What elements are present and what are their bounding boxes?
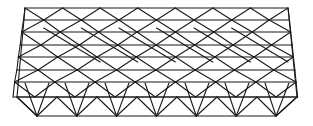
web-member xyxy=(269,20,290,32)
diagonal-member xyxy=(213,8,232,20)
diagonal-member xyxy=(38,57,58,70)
web-member xyxy=(156,70,176,82)
diagonal-member xyxy=(77,57,97,70)
web-member xyxy=(214,20,232,32)
web-member xyxy=(195,45,215,57)
diagonal-member xyxy=(195,57,215,70)
diagonal-member xyxy=(254,57,274,70)
diagonal-member xyxy=(194,8,213,20)
pyramid-member xyxy=(117,83,129,116)
left-edge xyxy=(17,8,25,97)
diagonal-member xyxy=(234,57,254,70)
diagonal-member xyxy=(55,82,75,97)
web-member xyxy=(22,20,44,32)
diagonal-member xyxy=(136,57,156,70)
diagonal-member xyxy=(118,32,137,45)
diagonal-member xyxy=(236,82,256,97)
diagonal-member xyxy=(157,8,176,20)
diagonal-member xyxy=(137,32,156,45)
edge-member xyxy=(13,82,15,97)
edge-member xyxy=(18,45,20,57)
diagonal-member xyxy=(44,8,63,20)
web-member xyxy=(95,70,117,82)
pyramid-member xyxy=(77,83,89,116)
web-member xyxy=(156,45,175,57)
diagonal-member xyxy=(81,8,100,20)
diagonal-member xyxy=(99,32,118,45)
web-member xyxy=(60,20,81,32)
web-member xyxy=(216,70,235,82)
space-frame-diagram xyxy=(0,0,313,126)
web-member xyxy=(38,70,55,82)
diagonal-member xyxy=(119,8,138,20)
pyramid-member xyxy=(236,83,249,116)
diagonal-member xyxy=(18,57,38,70)
web-member xyxy=(77,70,95,82)
diagonal-member xyxy=(138,8,157,20)
pyramid-member xyxy=(196,83,209,116)
front-right-edge xyxy=(276,97,297,116)
diagonal-member xyxy=(175,8,194,20)
pyramid-member xyxy=(276,83,289,116)
web-member xyxy=(271,45,293,57)
diagonal-member xyxy=(100,8,119,20)
diagonal-member xyxy=(175,32,194,45)
web-member xyxy=(215,45,233,57)
web-member xyxy=(135,70,156,82)
web-member xyxy=(233,45,254,57)
diagonal-member xyxy=(269,8,288,20)
diagonal-member xyxy=(214,32,233,45)
web-member xyxy=(136,45,156,57)
diagonal-member xyxy=(176,57,196,70)
diagonal-member xyxy=(156,57,176,70)
web-member xyxy=(81,20,98,32)
web-member xyxy=(176,45,195,57)
web-member xyxy=(44,20,60,32)
diagonal-member xyxy=(215,57,235,70)
diagonal-member xyxy=(97,57,117,70)
diagonal-member xyxy=(41,32,60,45)
diagonal-member xyxy=(196,82,216,97)
pyramid-member xyxy=(157,83,170,116)
diagonal-member xyxy=(252,32,271,45)
web-member xyxy=(58,45,80,57)
web-member xyxy=(175,20,194,32)
web-member xyxy=(252,20,269,32)
web-member xyxy=(256,70,274,82)
web-member xyxy=(55,70,78,82)
edge-member xyxy=(15,70,17,82)
right-edge xyxy=(288,8,297,97)
diagonal-member xyxy=(250,8,269,20)
diagonal-member xyxy=(63,8,82,20)
web-member xyxy=(175,70,195,82)
diagonal-member xyxy=(271,32,290,45)
web-member xyxy=(99,20,119,32)
web-member xyxy=(97,45,118,57)
web-member xyxy=(41,45,58,57)
diagonal-member xyxy=(25,8,44,20)
web-member xyxy=(234,70,255,82)
diagonal-member xyxy=(22,32,41,45)
web-member xyxy=(137,20,157,32)
edge-member xyxy=(17,57,19,70)
diagonal-member xyxy=(58,57,78,70)
web-member xyxy=(195,70,215,82)
diagonal-member xyxy=(232,8,251,20)
diagonal-member xyxy=(79,32,98,45)
web-member xyxy=(274,70,296,82)
diagonal-member xyxy=(155,82,175,97)
web-member xyxy=(117,70,136,82)
